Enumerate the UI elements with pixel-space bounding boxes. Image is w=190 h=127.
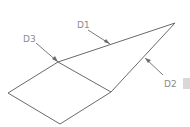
label-d3: D3 <box>23 34 36 44</box>
arrowhead-icon <box>52 56 58 62</box>
edge-bottom-right <box>60 92 111 124</box>
surface-diagram: D1 D3 D2 <box>0 0 190 127</box>
edge-d3 <box>58 62 111 92</box>
gray-artifact <box>183 78 190 89</box>
leader-d3 <box>36 43 58 62</box>
leader-d1 <box>88 30 110 44</box>
edge-left-lower <box>8 93 60 124</box>
edge-left-upper <box>8 62 58 93</box>
arrowhead-icon <box>104 39 110 44</box>
label-d2: D2 <box>164 79 177 89</box>
leader-d2 <box>145 58 163 75</box>
label-d1: D1 <box>77 20 90 30</box>
